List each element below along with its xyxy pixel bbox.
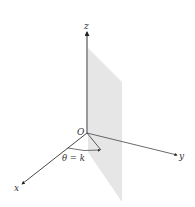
origin-label: O: [77, 127, 85, 137]
cylindrical-plane-diagram: z y x O θ = k: [0, 0, 195, 207]
y-axis-label: y: [178, 151, 185, 161]
half-plane: [88, 48, 122, 202]
z-axis-label: z: [83, 21, 89, 31]
angle-label: θ = k: [62, 153, 85, 163]
x-axis-label: x: [14, 183, 19, 193]
